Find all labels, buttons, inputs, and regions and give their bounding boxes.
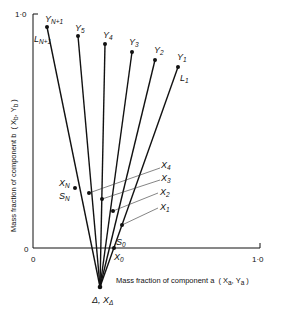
point-delta: [98, 285, 103, 290]
label-sn: SN: [59, 191, 70, 202]
point-y4: [103, 42, 107, 46]
point-x2: [111, 209, 115, 213]
line-4: [100, 44, 105, 287]
label-x3: X3: [160, 173, 171, 184]
label-x0: X0: [113, 252, 124, 263]
label-s0: S0: [116, 237, 126, 248]
label-delta: Δ, XΔ: [91, 295, 113, 306]
line-2: [100, 60, 155, 287]
x-tick-1: 1·0: [252, 255, 264, 264]
point-y2: [153, 58, 157, 62]
y-tick-1: 1·0: [15, 10, 27, 19]
y-axis-title: Mass fraction of component b( Xb, Yb): [9, 99, 19, 232]
line-5: [78, 36, 100, 287]
point-y3: [130, 50, 134, 54]
point-x4: [87, 191, 91, 195]
label-y1: Y1: [177, 52, 187, 63]
operating-line-diagram: 1·0 0 0 1·0 YN+1 LN+1 Y5 Y4: [0, 0, 281, 315]
label-x4: X4: [160, 160, 171, 171]
x-tick-0: 0: [31, 255, 36, 264]
x-axis-title: Mass fraction of component a( Xa, Ya): [116, 276, 249, 286]
point-xn: [73, 186, 77, 190]
point-x1: [120, 223, 124, 227]
point-x3: [100, 197, 104, 201]
label-x1: X1: [159, 202, 170, 213]
label-l1: L1: [180, 73, 189, 84]
point-y1: [176, 65, 180, 69]
label-y5: Y5: [75, 23, 85, 34]
label-y-n-plus-1: YN+1: [45, 14, 64, 25]
point-y-n-plus-1: [45, 25, 49, 29]
label-y4: Y4: [103, 30, 113, 41]
y-tick-0: 0: [24, 245, 29, 254]
axes: [33, 14, 260, 248]
label-xn: XN: [58, 178, 70, 189]
label-y3: Y3: [129, 37, 139, 48]
label-x2: X2: [159, 187, 170, 198]
point-y5: [76, 34, 80, 38]
label-y2: Y2: [154, 45, 164, 56]
